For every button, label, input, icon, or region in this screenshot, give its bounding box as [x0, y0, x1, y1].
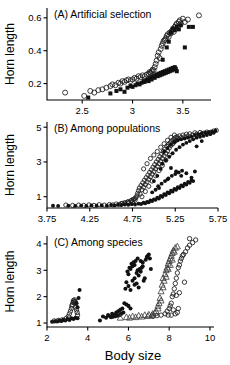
x-tick-label: 5.75	[209, 213, 228, 224]
x-tick-label: 5.25	[166, 213, 185, 224]
panel-title: (B) Among populations	[54, 122, 160, 134]
y-axis-title: Horn length	[3, 250, 17, 312]
y-tick-label: 3	[36, 156, 41, 167]
panel-title: (A) Artificial selection	[54, 8, 152, 20]
x-tick-label: 4.75	[123, 213, 142, 224]
x-tick-label: 2	[44, 332, 49, 343]
figure-svg: 2.533.50.20.40.6(A) Artificial selection…	[0, 0, 230, 365]
panel-a-artificial-selection: 2.533.50.20.40.6(A) Artificial selection…	[3, 8, 211, 116]
y-tick-label: 0.2	[28, 78, 41, 89]
y-tick-label: 1	[36, 317, 41, 328]
y-tick-label: 4	[36, 238, 41, 249]
y-axis-title: Horn length	[3, 134, 17, 196]
y-tick-label: 5	[36, 122, 41, 133]
x-tick-label: 10	[205, 332, 216, 343]
x-tick-label: 3.5	[176, 105, 189, 116]
scientific-figure: 2.533.50.20.40.6(A) Artificial selection…	[0, 0, 230, 365]
y-tick-label: 3	[36, 265, 41, 276]
y-tick-label: 1	[36, 191, 41, 202]
y-axis-title: Horn length	[3, 23, 17, 85]
x-tick-label: 3	[130, 105, 135, 116]
panel-c-among-species: 2468101234(C) Among speciesHorn length	[3, 236, 215, 343]
panel-b-among-populations: 3.754.254.755.255.75135(B) Among populat…	[3, 122, 227, 224]
x-tick-label: 4	[85, 332, 90, 343]
y-tick-label: 0.4	[28, 45, 41, 56]
x-axis-title: Body size	[105, 348, 161, 363]
x-tick-label: 8	[167, 332, 172, 343]
panel-title: (C) Among species	[54, 236, 143, 248]
x-tick-label: 6	[126, 332, 131, 343]
x-tick-label: 2.5	[76, 105, 89, 116]
y-tick-label: 0.6	[28, 12, 41, 23]
y-tick-label: 2	[36, 291, 41, 302]
x-tick-label: 4.25	[81, 213, 100, 224]
x-tick-label: 3.75	[38, 213, 57, 224]
